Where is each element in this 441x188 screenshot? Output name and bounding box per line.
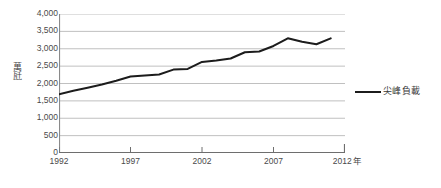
legend-line-swatch [355,91,381,93]
x-axis-unit-label: 年 [353,156,362,166]
y-tick-label: 1,500 [22,96,58,105]
x-tick-label: 1992 [50,156,69,166]
y-tick-label: 4,000 [22,9,58,18]
x-tick-label: 2012年 [333,156,362,166]
chart-plot-svg [59,14,345,153]
y-tick-label: 3,500 [22,26,58,35]
x-axis-tick-labels: 19921997200220072012年 [0,156,441,172]
chart-legend: 尖峰負載 [355,86,420,97]
gridlines [59,14,345,136]
y-tick-label: 3,000 [22,44,58,53]
x-tick-label: 2007 [264,156,283,166]
chart-figure: 萬瓩 05001,0001,5002,0002,5003,0003,5004,0… [0,0,441,188]
legend-label-peak-load: 尖峰負載 [383,86,420,97]
y-tick-label: 500 [22,131,58,140]
y-tick-label: 1,000 [22,113,58,122]
plot-area [59,14,345,153]
y-tick-label: 2,000 [22,79,58,88]
y-tick-label: 2,500 [22,61,58,70]
x-tick-label: 2002 [193,156,212,166]
x-tick-label: 1997 [121,156,140,166]
x-axis-tick-marks [59,147,345,152]
y-axis-title: 萬瓩 [8,62,22,80]
